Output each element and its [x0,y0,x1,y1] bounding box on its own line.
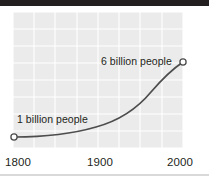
bottom-rule [0,174,209,176]
x-tick-label-1800: 1800 [5,156,31,168]
start-marker [11,134,17,140]
end-marker [180,59,186,65]
population-growth-figure: 1 billion people 6 billion people 1800 1… [0,0,209,180]
x-tick-label-2000: 2000 [167,156,193,168]
end-point-label: 6 billion people [101,55,172,67]
x-tick-label-1900: 1900 [87,156,113,168]
population-line-chart [0,0,209,180]
start-point-label: 1 billion people [17,113,88,125]
